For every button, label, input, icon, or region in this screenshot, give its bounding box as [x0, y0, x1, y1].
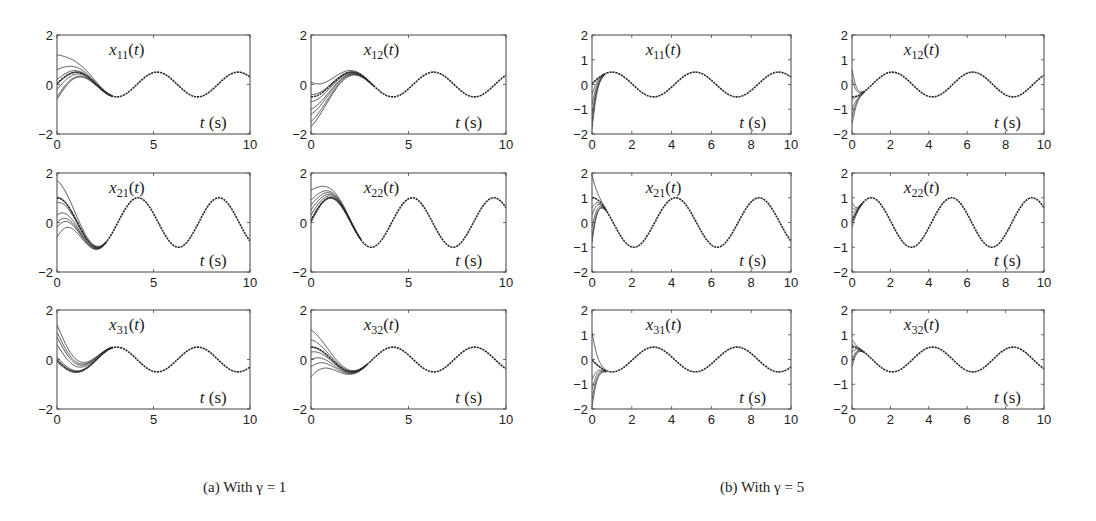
y-tick-label: −1	[833, 240, 848, 255]
y-tick-label: −1	[573, 377, 588, 392]
x-tick-label: 8	[1002, 275, 1009, 290]
x-tick-label: 0	[588, 275, 595, 290]
steady-state-line	[57, 72, 250, 97]
y-tick-label: −2	[573, 127, 588, 142]
x-tick-label: 10	[499, 412, 513, 427]
steady-state-line	[592, 198, 791, 248]
steady-state-line	[852, 347, 1044, 372]
y-tick-label: 2	[581, 28, 588, 43]
x-tick-label: 4	[668, 275, 675, 290]
data-lines	[592, 175, 791, 247]
x-tick-label: 4	[668, 412, 675, 427]
y-tick-label: 0	[300, 353, 307, 368]
x-tick-label: 2	[887, 412, 894, 427]
y-tick-label: −2	[38, 402, 53, 417]
x-tick-label: 8	[1002, 412, 1009, 427]
x-tick-label: 2	[887, 137, 894, 152]
x-tick-label: 8	[1002, 137, 1009, 152]
series-label: x31(t)	[645, 315, 682, 337]
x-tick-label: 5	[405, 275, 412, 290]
y-tick-label: −1	[573, 102, 588, 117]
x-tick-label: 5	[150, 275, 157, 290]
y-tick-label: 2	[581, 166, 588, 181]
x-tick-label: 2	[628, 275, 635, 290]
x-tick-label: 8	[748, 275, 755, 290]
series-label: x22(t)	[903, 178, 940, 200]
y-tick-label: 0	[581, 216, 588, 231]
subplot-b-11: 0246810−2−1012x11(t)t (s)	[573, 28, 798, 152]
x-tick-label: 0	[53, 275, 60, 290]
y-tick-label: 0	[581, 78, 588, 93]
data-lines	[57, 180, 250, 249]
y-tick-label: −2	[833, 402, 848, 417]
y-tick-label: −2	[833, 127, 848, 142]
x-tick-label: 4	[925, 412, 932, 427]
y-tick-label: 2	[841, 303, 848, 318]
subplot-a-11: 0510−202x11(t)t (s)	[38, 28, 257, 152]
x-axis-label: t (s)	[994, 388, 1021, 407]
steady-state-line	[592, 347, 791, 372]
data-lines	[57, 325, 250, 373]
y-tick-label: 0	[300, 78, 307, 93]
subplot-a-22: 0510−202x22(t)t (s)	[292, 166, 513, 290]
x-tick-label: 6	[964, 275, 971, 290]
x-tick-label: 0	[307, 137, 314, 152]
x-tick-label: 10	[784, 137, 798, 152]
data-lines	[311, 186, 506, 247]
x-axis-label: t (s)	[994, 113, 1021, 132]
x-axis-label: t (s)	[455, 388, 482, 407]
x-tick-label: 0	[848, 412, 855, 427]
y-tick-label: 2	[300, 303, 307, 318]
x-tick-label: 0	[53, 412, 60, 427]
data-lines	[311, 330, 506, 377]
x-tick-label: 6	[708, 137, 715, 152]
subplot-a-32: 0510−202x32(t)t (s)	[292, 303, 513, 427]
x-axis-label: t (s)	[739, 388, 766, 407]
y-tick-label: 2	[46, 303, 53, 318]
y-tick-label: 1	[841, 53, 848, 68]
x-axis-label: t (s)	[455, 251, 482, 270]
x-tick-label: 10	[784, 412, 798, 427]
x-axis-label: t (s)	[200, 113, 227, 132]
series-label: x31(t)	[108, 315, 145, 337]
x-tick-label: 5	[150, 137, 157, 152]
series-label: x12(t)	[903, 40, 940, 62]
x-tick-label: 10	[499, 275, 513, 290]
series-label: x21(t)	[108, 178, 145, 200]
x-tick-label: 10	[243, 275, 257, 290]
y-tick-label: −1	[573, 240, 588, 255]
x-axis-label: t (s)	[200, 388, 227, 407]
steady-state-line	[592, 72, 791, 97]
x-tick-label: 10	[243, 137, 257, 152]
series-label: x11(t)	[645, 40, 681, 62]
y-tick-label: −2	[38, 265, 53, 280]
y-tick-label: 2	[300, 166, 307, 181]
x-tick-label: 0	[588, 412, 595, 427]
y-tick-label: −1	[833, 102, 848, 117]
y-tick-label: −2	[833, 265, 848, 280]
y-tick-label: 0	[841, 353, 848, 368]
y-tick-label: 2	[46, 28, 53, 43]
subplot-b-12: 0246810−2−1012x12(t)t (s)	[833, 28, 1051, 152]
data-lines	[852, 198, 1044, 248]
figure-canvas: 0510−202x11(t)t (s)0510−202x12(t)t (s)05…	[0, 0, 1096, 521]
x-tick-label: 4	[925, 137, 932, 152]
y-tick-label: −2	[573, 402, 588, 417]
x-tick-label: 4	[925, 275, 932, 290]
y-tick-label: −2	[292, 402, 307, 417]
x-tick-label: 0	[848, 137, 855, 152]
subplot-b-21: 0246810−2−1012x21(t)t (s)	[573, 166, 798, 290]
subplot-b-22: 0246810−2−1012x22(t)t (s)	[833, 166, 1051, 290]
x-tick-label: 10	[243, 412, 257, 427]
x-tick-label: 6	[708, 275, 715, 290]
y-tick-label: 0	[841, 78, 848, 93]
y-tick-label: 2	[46, 166, 53, 181]
caption-a: (a) With γ = 1	[203, 479, 286, 496]
x-axis-label: t (s)	[739, 251, 766, 270]
series-label: x32(t)	[903, 315, 940, 337]
subplot-b-32: 0246810−2−1012x32(t)t (s)	[833, 303, 1051, 427]
x-tick-label: 4	[668, 137, 675, 152]
series-label: x22(t)	[363, 178, 400, 200]
x-tick-label: 2	[887, 275, 894, 290]
x-tick-label: 6	[964, 412, 971, 427]
